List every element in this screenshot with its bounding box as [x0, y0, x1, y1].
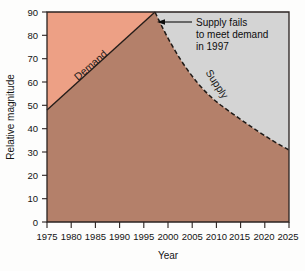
supply-demand-figure: 0 10 20 30 40 50 60 70 80 90 1975 1980 1…	[0, 0, 305, 271]
x-tick-label-1985: 1985	[85, 231, 106, 242]
x-tick-label-2025: 2025	[277, 231, 298, 242]
annotation-text-line-1: Supply fails	[196, 17, 247, 28]
x-axis-ticks	[47, 222, 289, 228]
y-tick-label-90: 90	[27, 7, 38, 18]
x-tick-label-1990: 1990	[109, 231, 130, 242]
chart-canvas: 0 10 20 30 40 50 60 70 80 90 1975 1980 1…	[0, 0, 305, 271]
x-tick-label-2010: 2010	[206, 231, 227, 242]
x-tick-label-2005: 2005	[182, 231, 203, 242]
annotation-text-line-2: to meet demand	[196, 29, 268, 40]
annotation-text-line-3: in 1997	[196, 41, 229, 52]
y-tick-label-80: 80	[27, 30, 38, 41]
y-tick-label-0: 0	[33, 217, 38, 228]
y-tick-label-60: 60	[27, 77, 38, 88]
y-axis-ticks	[42, 12, 47, 222]
x-tick-label-2000: 2000	[157, 231, 178, 242]
x-tick-label-2015: 2015	[229, 231, 250, 242]
x-tick-label-1975: 1975	[36, 231, 57, 242]
y-tick-label-10: 10	[27, 193, 38, 204]
x-tick-label-1995: 1995	[133, 231, 154, 242]
y-tick-label-70: 70	[27, 53, 38, 64]
x-axis-title: Year	[158, 250, 179, 261]
y-axis-title: Relative magnitude	[5, 74, 16, 160]
y-tick-label-20: 20	[27, 170, 38, 181]
y-tick-label-30: 30	[27, 147, 38, 158]
y-tick-label-40: 40	[27, 123, 38, 134]
x-tick-label-2020: 2020	[253, 231, 274, 242]
y-tick-label-50: 50	[27, 100, 38, 111]
x-tick-label-1980: 1980	[61, 231, 82, 242]
